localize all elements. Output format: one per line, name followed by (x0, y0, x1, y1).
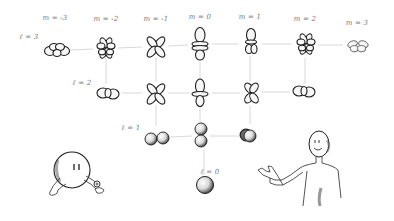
orbital-l2-m0 (192, 79, 208, 107)
orbital-l3-m2 (297, 33, 315, 55)
orbital-l0-m0 (197, 177, 214, 194)
orbital-l3-m3 (347, 40, 369, 52)
orbital-l1-m0 (195, 123, 207, 147)
row-label-l2: ℓ = 2 (73, 79, 92, 87)
orbital-l3-m-3 (45, 44, 70, 57)
orbital-l1-m1 (240, 129, 256, 142)
orbital-diagram (0, 0, 394, 221)
column-label-m2: m = 2 (294, 15, 316, 23)
orbital-l2-m2 (293, 86, 315, 97)
column-label-m-3: m = -3 (43, 14, 68, 22)
orbital-l2-m-1 (145, 82, 166, 106)
row-l3-orbitals (45, 28, 370, 61)
row-label-l3: ℓ = 3 (20, 33, 39, 41)
orbital-l2-m1 (243, 81, 260, 104)
guide-lines (70, 44, 343, 175)
orbital-l3-m-2 (97, 37, 115, 59)
column-label-m0: m = 0 (189, 13, 211, 21)
column-label-m-2: m = -2 (94, 15, 119, 23)
orbital-l1-m-1 (145, 132, 169, 145)
column-label-m1: m = 1 (239, 13, 261, 21)
column-label-m-1: m = -1 (144, 15, 169, 23)
orbital-l3-m-1 (145, 35, 166, 59)
row-label-l1: ℓ = 1 (122, 124, 141, 132)
orbital-l2-m-2 (97, 88, 119, 99)
orbital-l3-m0 (192, 28, 208, 61)
row-label-l0: ℓ = 0 (201, 168, 220, 176)
blob-character (50, 152, 105, 195)
column-label-m3: m = 3 (346, 19, 368, 27)
pointing-hand (258, 166, 283, 185)
row-l1-orbitals (145, 123, 256, 147)
pointing-person (258, 131, 341, 206)
orbital-l3-m1 (246, 29, 258, 54)
